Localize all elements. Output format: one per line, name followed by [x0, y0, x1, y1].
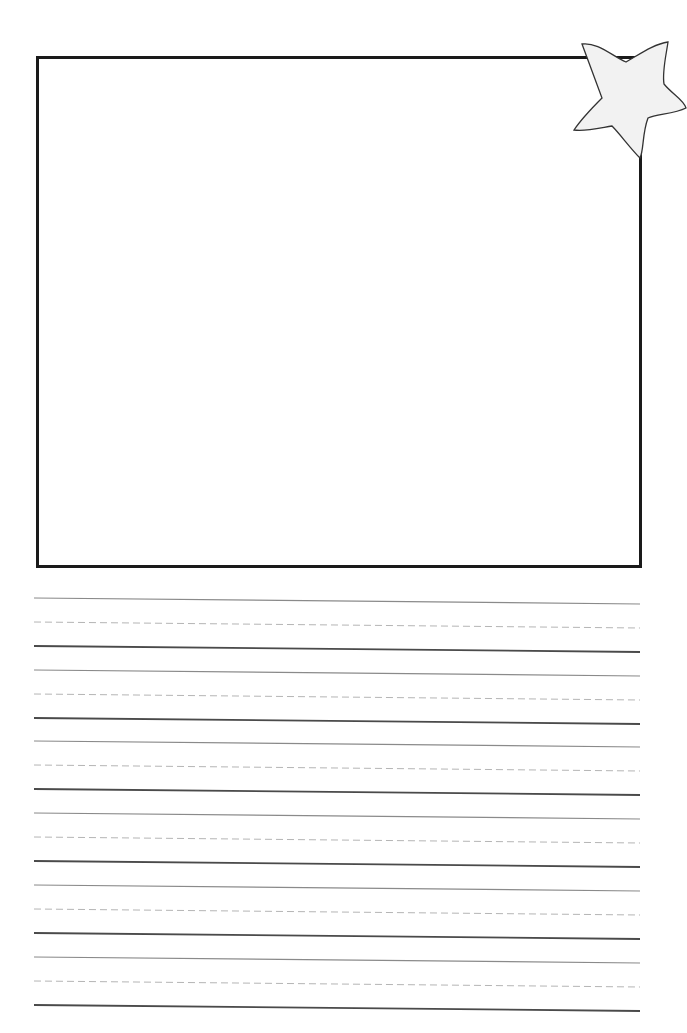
dashed-midline: [34, 837, 640, 843]
line-group: [34, 741, 640, 795]
dashed-midline: [34, 765, 640, 771]
baseline: [34, 861, 640, 867]
top-line: [34, 741, 640, 747]
writing-lines: [0, 0, 687, 1033]
top-line: [34, 813, 640, 819]
top-line: [34, 670, 640, 676]
line-group: [34, 957, 640, 1011]
baseline: [34, 718, 640, 724]
dashed-midline: [34, 981, 640, 987]
baseline: [34, 1005, 640, 1011]
top-line: [34, 598, 640, 604]
dashed-midline: [34, 909, 640, 915]
baseline: [34, 789, 640, 795]
line-group: [34, 813, 640, 867]
baseline: [34, 933, 640, 939]
dashed-midline: [34, 694, 640, 700]
top-line: [34, 885, 640, 891]
baseline: [34, 646, 640, 652]
line-group: [34, 670, 640, 724]
line-group: [34, 885, 640, 939]
top-line: [34, 957, 640, 963]
line-group: [34, 598, 640, 652]
dashed-midline: [34, 622, 640, 628]
